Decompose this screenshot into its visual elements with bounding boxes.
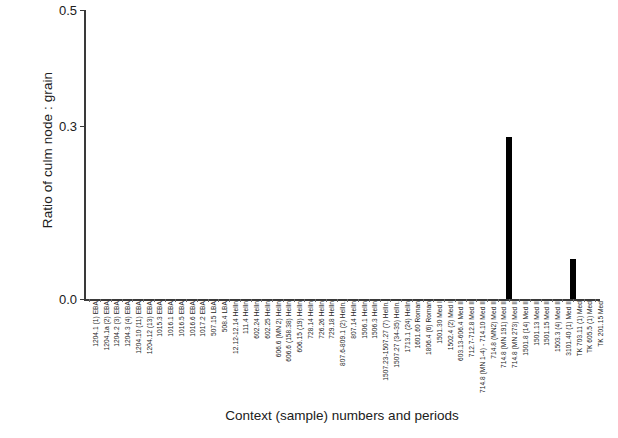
y-tick-mark: [80, 299, 84, 300]
bar-slot: [417, 10, 428, 299]
x-tick-label: 807.14 Helln: [350, 301, 357, 339]
y-tick-label: 0.3: [59, 118, 77, 133]
x-tick-label: 12.12-12.14 Helln: [232, 301, 239, 354]
bar-slot: [557, 10, 568, 299]
x-tick-label: 1016.6 EBA: [189, 301, 196, 337]
bar-slot: [503, 10, 514, 299]
bar: [570, 259, 576, 299]
bar-slot: [353, 10, 364, 299]
x-tick-label: 1507.23-1507.27 (7) Helln.: [382, 301, 389, 381]
x-tick-label: 714.8 (MN 1-4) - 714.10 Med II: [479, 301, 486, 393]
y-tick-label: 0.5: [59, 3, 77, 18]
bar-slot: [299, 10, 310, 299]
x-tick-label: 1601.60 Roman: [414, 301, 421, 349]
x-tick-label: 1502.4 (2) Med I: [447, 301, 454, 350]
x-tick-label: 507.15 LBA: [210, 301, 217, 336]
bar-slot: [106, 10, 117, 299]
bar-slot: [116, 10, 127, 299]
bar-slot: [267, 10, 278, 299]
bar-slot: [278, 10, 289, 299]
bar-slot: [525, 10, 536, 299]
bar-slot: [202, 10, 213, 299]
bar-slot: [321, 10, 332, 299]
x-tick-label: 1204.1 (1) EBA: [92, 301, 99, 347]
x-tick-label: TK 605.5 (1) Med: [586, 301, 593, 353]
bar-slot: [374, 10, 385, 299]
x-tick-label: 1204.3 (4) EBA: [124, 301, 131, 347]
chart-figure: Ratio of culm node : grain 0.00.30.5 120…: [0, 0, 618, 438]
x-tick-label: 508.4 LBA: [221, 301, 228, 332]
bar-slot: [407, 10, 418, 299]
bar-series: [84, 10, 600, 299]
bar-slot: [471, 10, 482, 299]
bar-slot: [589, 10, 600, 299]
x-tick-label: 1016.1 EBA: [167, 301, 174, 337]
x-tick-label: 606.6 (158.38) Helln: [285, 301, 292, 362]
x-tick-label: 606.15 (19) Helln: [296, 301, 303, 352]
plot-area: 0.00.30.5: [84, 10, 600, 299]
bar-slot: [331, 10, 342, 299]
x-tick-label: 1204.2 (3) EBA: [113, 301, 120, 347]
bar-slot: [149, 10, 160, 299]
x-tick-label-group: 1204.1 (1) EBA1204.1a (2) EBA1204.2 (3) …: [84, 301, 600, 401]
x-tick-label: 1015.3 EBA: [156, 301, 163, 337]
bar-slot: [256, 10, 267, 299]
bar-slot: [385, 10, 396, 299]
bar-slot: [396, 10, 407, 299]
bar-slot: [428, 10, 439, 299]
x-tick-label: 1204.1a (2) EBA: [103, 301, 110, 351]
y-tick-label: 0.0: [59, 292, 77, 307]
x-tick-label: 603.13-606.4 Med II: [457, 301, 464, 361]
bar-slot: [95, 10, 106, 299]
x-tick-label: TK 703.11 (1) Med: [576, 301, 583, 356]
x-tick-label: 1501.15 Med II: [543, 301, 550, 346]
bar-slot: [159, 10, 170, 299]
bar-slot: [213, 10, 224, 299]
x-tick-label: 1017.2 EBA: [199, 301, 206, 337]
bar-slot: [482, 10, 493, 299]
bar-slot: [536, 10, 547, 299]
x-tick-label: 728.14 Helln: [307, 301, 314, 339]
x-tick-label: 602.25 Helln: [264, 301, 271, 339]
bar-slot: [342, 10, 353, 299]
x-tick-label: 1016.5 EBA: [178, 301, 185, 337]
x-tick-label: 1204.10 (11) EBA: [135, 301, 142, 354]
x-tick-label: 1506.3 Helln: [371, 301, 378, 339]
x-tick-label: 729.18 Helln: [328, 301, 335, 339]
bar-slot: [493, 10, 504, 299]
x-tick-label: 714.8 (MN2) Med II: [490, 301, 497, 359]
x-tick-label: 807.6-809.1 (2) Helln.: [339, 301, 346, 366]
y-axis-title: Ratio of culm node : grain: [28, 0, 68, 300]
bar-slot: [514, 10, 525, 299]
x-tick-label: 712.7-712.8 Med II: [468, 301, 475, 357]
x-tick-label: 602.24 Helln: [253, 301, 260, 339]
bar-slot: [192, 10, 203, 299]
bar-slot: [170, 10, 181, 299]
bar-slot: [364, 10, 375, 299]
x-axis-title: Context (sample) numbers and periods: [84, 408, 600, 423]
x-tick-label: 1501.13 Med II: [533, 301, 540, 346]
bar-slot: [460, 10, 471, 299]
bar-slot: [235, 10, 246, 299]
x-tick-label: 726.26 Helln: [318, 301, 325, 339]
bar-slot: [450, 10, 461, 299]
x-tick-label: TK 201.15 Med: [597, 301, 604, 347]
bar-slot: [288, 10, 299, 299]
x-tick-label: 3101.40 (1) Med II: [565, 301, 572, 356]
x-tick-label: 1506.1 Helln: [361, 301, 368, 339]
bar-slot: [181, 10, 192, 299]
bar-slot: [127, 10, 138, 299]
bar-slot: [579, 10, 590, 299]
x-tick-label: 1501.30 Med I: [436, 301, 443, 344]
x-tick-label: 1204.12 (13) EBA: [146, 301, 153, 354]
bar-slot: [224, 10, 235, 299]
x-tick-label: 111.4 Helln: [242, 301, 249, 334]
bar: [506, 137, 512, 299]
bar-slot: [138, 10, 149, 299]
bar-slot: [546, 10, 557, 299]
bar-slot: [568, 10, 579, 299]
bar-slot: [84, 10, 95, 299]
x-tick-label: 1507.27 (34-35) Helln.: [393, 301, 400, 368]
bar-slot: [439, 10, 450, 299]
x-tick-label: 714.8 (MN 273) Med II: [511, 301, 518, 368]
